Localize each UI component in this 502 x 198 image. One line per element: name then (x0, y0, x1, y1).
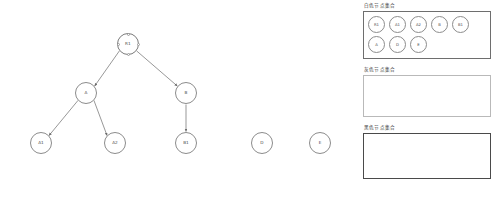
graph-canvas[interactable]: R1 A B A1 A2 B1 D E (0, 0, 358, 198)
graph-node-b[interactable]: B (175, 82, 197, 104)
node-set-box-black[interactable] (363, 133, 491, 179)
graph-node-label: A2 (112, 141, 118, 145)
node-set-title-white: 白色节点集合 (364, 4, 495, 9)
graph-node-a2[interactable]: A2 (104, 132, 126, 154)
node-chip-a[interactable]: A (368, 36, 385, 53)
graph-node-label: E (319, 141, 322, 145)
node-set-title-black: 黑色节点集合 (364, 126, 495, 131)
node-set-chips-white: R1 A1 A2 B B1 A D (368, 16, 486, 54)
graph-node-label: B1 (183, 141, 189, 145)
graph-node-r1[interactable]: R1 (117, 33, 139, 55)
edge-r1-b (137, 51, 178, 86)
node-set-box-white[interactable]: R1 A1 A2 B B1 A D (363, 11, 491, 59)
node-chip-b1[interactable]: B1 (452, 16, 469, 33)
graph-node-b1[interactable]: B1 (175, 132, 197, 154)
graph-node-label: A1 (38, 141, 44, 145)
node-chip-b[interactable]: B (431, 16, 448, 33)
node-chip-label: B (438, 23, 441, 27)
node-chip-label: A2 (416, 23, 421, 27)
node-set-box-gray[interactable] (363, 75, 491, 117)
graph-node-a[interactable]: A (75, 82, 97, 104)
node-chip-a2[interactable]: A2 (410, 16, 427, 33)
node-set-chips-black (368, 138, 486, 174)
edge-a-a2 (94, 100, 107, 135)
graph-node-e[interactable]: E (309, 132, 331, 154)
node-chip-label: B1 (458, 23, 463, 27)
port-east-icon[interactable] (137, 43, 140, 46)
node-chip-d[interactable]: D (389, 36, 406, 53)
port-south-icon[interactable] (127, 53, 130, 56)
graph-node-label: A (85, 91, 88, 95)
node-chip-label: A1 (395, 23, 400, 27)
node-chip-label: E (417, 43, 419, 47)
port-north-icon[interactable] (127, 33, 130, 36)
node-chip-label: A (375, 43, 378, 47)
graph-node-label: R1 (125, 42, 131, 46)
edge-a-a1 (49, 100, 78, 135)
node-set-chips-gray (368, 80, 486, 112)
graph-node-label: B (185, 91, 188, 95)
node-chip-r1[interactable]: R1 (368, 16, 385, 33)
node-set-group-gray: 灰色节点集合 (363, 68, 495, 117)
node-set-group-white: 白色节点集合 R1 A1 A2 B B1 A (363, 4, 495, 59)
edge-r1-a (95, 51, 120, 86)
graph-node-d[interactable]: D (251, 132, 273, 154)
node-chip-a1[interactable]: A1 (389, 16, 406, 33)
node-set-panel: 白色节点集合 R1 A1 A2 B B1 A (363, 0, 502, 198)
node-chip-label: D (396, 43, 399, 47)
node-set-title-gray: 灰色节点集合 (364, 68, 495, 73)
node-set-group-black: 黑色节点集合 (363, 126, 495, 179)
graph-node-label: D (260, 141, 263, 145)
node-chip-e[interactable]: E (410, 36, 427, 53)
node-chip-label: R1 (374, 23, 379, 27)
graph-node-a1[interactable]: A1 (30, 132, 52, 154)
port-west-icon[interactable] (117, 43, 120, 46)
